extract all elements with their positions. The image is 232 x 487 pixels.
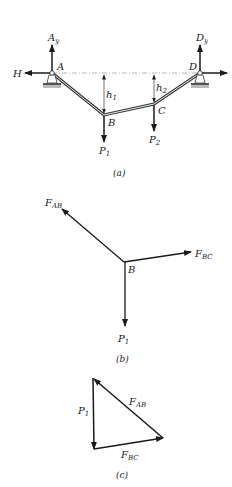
label-fbc: FBC [120,449,139,462]
label-node-c: C [158,105,166,116]
force-p1-arrow [93,378,94,449]
force-fab-arrow [94,379,163,438]
cable-force-diagram: Ay Dy H A D B C h1 h2 P1 P2 (a) B FAB FB… [0,0,232,487]
figure-c: P1 FAB FBC (c) [77,378,163,480]
label-node-d: D [188,61,197,72]
figure-a: Ay Dy H A D B C h1 h2 P1 P2 (a) [12,32,227,178]
label-p1: P1 [98,145,110,158]
label-p1: P1 [77,405,89,418]
figure-b: B FAB FBC P1 (b) [44,197,213,364]
label-h1: h1 [106,89,117,102]
cable [52,73,200,115]
label-h2: h2 [156,82,167,95]
label-node-a: A [56,61,64,72]
label-h: H [12,68,22,79]
caption-a: (a) [113,168,126,178]
force-fbc-arrow [124,252,191,262]
caption-b: (b) [116,354,129,364]
label-node-b: B [127,264,135,275]
label-p1: P1 [117,333,129,346]
label-p2: P2 [148,134,161,147]
label-ay: Ay [47,32,60,45]
label-fab: FAB [44,197,62,210]
caption-c: (c) [116,470,129,480]
label-fbc: FBC [194,248,213,261]
label-dy: Dy [195,32,209,45]
force-fab-arrow [62,209,124,262]
force-fbc-arrow [94,438,163,449]
label-fab: FAB [128,396,146,409]
label-node-b: B [107,117,115,128]
